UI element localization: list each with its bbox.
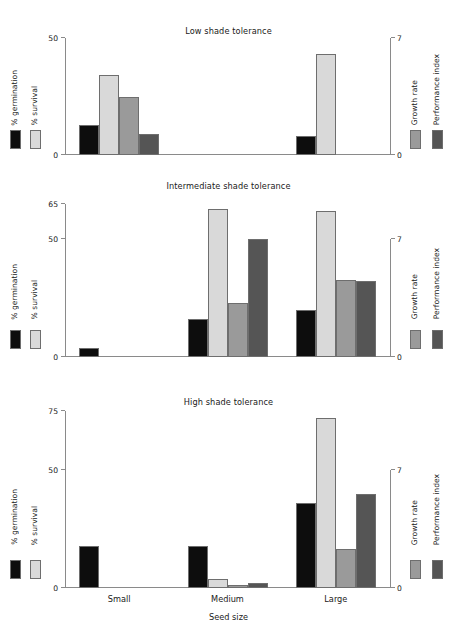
legend-swatch bbox=[30, 560, 41, 579]
survival-bar bbox=[316, 211, 336, 357]
legend-swatch bbox=[432, 330, 443, 349]
left-legend: % germination% survival bbox=[0, 411, 62, 588]
right-axis-tick bbox=[391, 587, 395, 588]
legend-label: % germination bbox=[10, 70, 19, 126]
right-axis-line bbox=[390, 470, 391, 588]
performance-index-bar bbox=[248, 239, 268, 357]
survival-bar bbox=[316, 54, 336, 155]
left-legend: % germination% survival bbox=[0, 204, 62, 357]
right-axis-tick-label: 7 bbox=[397, 235, 402, 244]
legend-label: Performance index bbox=[432, 248, 441, 319]
plot-area: 05007 bbox=[65, 38, 390, 155]
right-axis-tick bbox=[391, 37, 395, 38]
panel-title: Low shade tolerance bbox=[0, 26, 457, 36]
growth-rate-bar bbox=[336, 280, 356, 357]
legend-label: % survival bbox=[30, 280, 39, 319]
legend-item-performance-index: Performance index bbox=[430, 411, 448, 588]
survival-bar bbox=[208, 579, 228, 588]
right-axis-tick bbox=[391, 356, 395, 357]
growth-rate-bar bbox=[119, 97, 139, 156]
right-axis-tick-label: 7 bbox=[397, 34, 402, 43]
survival-bar bbox=[99, 75, 119, 155]
x-axis-title: Seed size bbox=[0, 612, 457, 622]
chart-figure: Low shade tolerance 05007% germination% … bbox=[0, 0, 457, 632]
performance-index-bar bbox=[248, 583, 268, 588]
performance-index-bar bbox=[356, 281, 376, 357]
right-axis-tick bbox=[391, 154, 395, 155]
right-axis-line bbox=[390, 239, 391, 357]
left-axis-line bbox=[65, 411, 66, 588]
legend-label: Growth rate bbox=[410, 80, 419, 125]
legend-item-performance-index: Performance index bbox=[430, 204, 448, 357]
legend-item-survival: % survival bbox=[28, 204, 44, 357]
x-axis-category-label: Large bbox=[282, 594, 390, 604]
legend-swatch bbox=[410, 130, 421, 149]
right-legend: Growth ratePerformance index bbox=[406, 38, 457, 155]
legend-label: Growth rate bbox=[410, 274, 419, 319]
legend-item-performance-index: Performance index bbox=[430, 38, 448, 155]
x-axis-category-label: Small bbox=[65, 594, 173, 604]
left-axis-line bbox=[65, 204, 66, 357]
right-axis-line bbox=[390, 38, 391, 155]
legend-item-germination: % germination bbox=[8, 411, 24, 588]
right-legend: Growth ratePerformance index bbox=[406, 411, 457, 588]
legend-label: Growth rate bbox=[410, 500, 419, 545]
legend-item-growth-rate: Growth rate bbox=[408, 411, 426, 588]
performance-index-bar bbox=[356, 494, 376, 588]
survival-bar bbox=[316, 418, 336, 588]
legend-swatch bbox=[10, 330, 21, 349]
growth-rate-bar bbox=[228, 303, 248, 357]
right-axis-tick-label: 0 bbox=[397, 584, 402, 593]
performance-index-bar bbox=[139, 134, 159, 155]
legend-item-germination: % germination bbox=[8, 204, 24, 357]
legend-label: Performance index bbox=[432, 474, 441, 545]
legend-label: % germination bbox=[10, 489, 19, 545]
legend-item-survival: % survival bbox=[28, 411, 44, 588]
germination-bar bbox=[79, 546, 99, 588]
legend-item-growth-rate: Growth rate bbox=[408, 204, 426, 357]
legend-label: % germination bbox=[10, 264, 19, 320]
legend-swatch bbox=[432, 560, 443, 579]
plot-area: 0507507 bbox=[65, 411, 390, 588]
right-axis-tick-label: 0 bbox=[397, 151, 402, 160]
legend-label: % survival bbox=[30, 506, 39, 545]
legend-label: % survival bbox=[30, 86, 39, 125]
right-axis-tick-label: 0 bbox=[397, 353, 402, 362]
germination-bar bbox=[79, 348, 99, 357]
panel-low-shade-tolerance: Low shade tolerance 05007% germination% … bbox=[0, 12, 457, 177]
legend-item-survival: % survival bbox=[28, 38, 44, 155]
germination-bar bbox=[79, 125, 99, 155]
legend-swatch bbox=[10, 560, 21, 579]
panel-intermediate-shade-tolerance: Intermediate shade tolerance 0506507% ge… bbox=[0, 178, 457, 378]
right-axis-tick-label: 7 bbox=[397, 466, 402, 475]
legend-swatch bbox=[410, 330, 421, 349]
legend-swatch bbox=[410, 560, 421, 579]
legend-item-germination: % germination bbox=[8, 38, 24, 155]
legend-swatch bbox=[30, 130, 41, 149]
legend-swatch bbox=[432, 130, 443, 149]
survival-bar bbox=[208, 209, 228, 357]
germination-bar bbox=[296, 503, 316, 588]
right-axis-tick bbox=[391, 238, 395, 239]
germination-bar bbox=[188, 546, 208, 588]
x-axis-category-label: Medium bbox=[173, 594, 281, 604]
right-legend: Growth ratePerformance index bbox=[406, 204, 457, 357]
legend-label: Performance index bbox=[432, 54, 441, 125]
left-legend: % germination% survival bbox=[0, 38, 62, 155]
panel-title: High shade tolerance bbox=[0, 397, 457, 407]
germination-bar bbox=[296, 310, 316, 357]
growth-rate-bar bbox=[336, 549, 356, 588]
panel-title: Intermediate shade tolerance bbox=[0, 181, 457, 191]
left-axis-line bbox=[65, 38, 66, 155]
legend-item-growth-rate: Growth rate bbox=[408, 38, 426, 155]
legend-swatch bbox=[10, 130, 21, 149]
plot-area: 0506507 bbox=[65, 204, 390, 357]
legend-swatch bbox=[30, 330, 41, 349]
growth-rate-bar bbox=[228, 585, 248, 588]
germination-bar bbox=[188, 319, 208, 357]
germination-bar bbox=[296, 136, 316, 155]
panel-high-shade-tolerance: High shade tolerance Seed size 0507507% … bbox=[0, 385, 457, 632]
right-axis-tick bbox=[391, 469, 395, 470]
